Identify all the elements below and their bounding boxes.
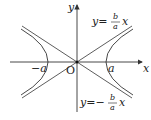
y-axis-label: y bbox=[67, 1, 75, 14]
svg-text:b: b bbox=[110, 93, 115, 102]
left-vertex-label: −a bbox=[31, 62, 47, 75]
origin-point bbox=[76, 61, 79, 64]
svg-text:y=−: y=− bbox=[79, 96, 105, 109]
asymptote-upper-equation: y= b a x bbox=[91, 12, 129, 31]
right-vertex-label: a bbox=[108, 62, 115, 75]
svg-text:x: x bbox=[119, 96, 126, 109]
svg-text:a: a bbox=[113, 22, 118, 31]
hyperbola-diagram: x y O −a a y= b a x y=− b a x bbox=[0, 0, 151, 120]
svg-text:y=: y= bbox=[91, 15, 107, 28]
svg-text:b: b bbox=[113, 12, 118, 21]
asymptote-lower-equation: y=− b a x bbox=[79, 93, 126, 112]
x-axis-label: x bbox=[143, 62, 150, 75]
svg-text:a: a bbox=[110, 103, 115, 112]
origin-label: O bbox=[66, 64, 75, 77]
svg-text:x: x bbox=[122, 15, 129, 28]
